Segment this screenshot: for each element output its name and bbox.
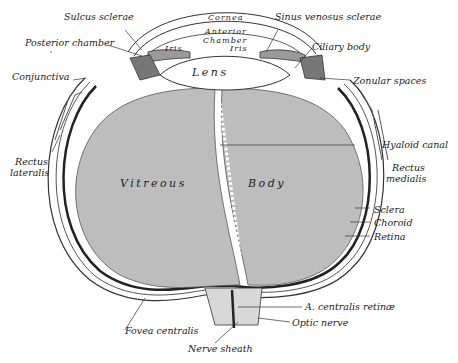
label-rectus-medialis-1: Rectus	[392, 163, 425, 173]
label-sulcus-sclerae: Sulcus sclerae	[64, 12, 134, 22]
label-fovea-centralis: Fovea centralis	[125, 326, 199, 336]
label-posterior-chamber: Posterior chamber	[25, 38, 114, 48]
label-lens: Lens	[192, 67, 229, 78]
label-a-centralis-retinae: A. centralis retinæ	[305, 302, 395, 312]
label-cornea: Cornea	[208, 14, 243, 22]
label-iris-left: Iris	[165, 45, 183, 53]
label-hyaloid-canal: Hyaloid canal	[382, 140, 448, 150]
label-anterior: Anterior	[205, 28, 247, 36]
label-zonular-spaces: Zonular spaces	[353, 76, 426, 86]
label-vitreous: Vitreous	[120, 178, 187, 189]
optic-nerve	[205, 288, 262, 328]
label-sinus-venosus-sclerae: Sinus venosus sclerae	[275, 12, 381, 22]
label-rectus-lateralis-1: Rectus	[15, 157, 48, 167]
label-retina: Retina	[374, 232, 405, 242]
eyeball-diagram: Cornea Anterior Chamber Iris Iris Lens V…	[0, 0, 458, 363]
label-body: Body	[248, 178, 286, 189]
label-choroid: Choroid	[374, 218, 413, 228]
label-ciliary-body: Ciliary body	[312, 42, 370, 52]
label-conjunctiva: Conjunctiva	[12, 72, 70, 82]
vitreous-body	[76, 88, 363, 288]
label-iris-right: Iris	[230, 45, 248, 53]
label-rectus-medialis-2: medialis	[386, 174, 426, 184]
label-rectus-lateralis-2: lateralis	[10, 168, 49, 178]
label-sclera: Sclera	[374, 205, 405, 215]
label-nerve-sheath: Nerve sheath	[188, 344, 253, 354]
label-optic-nerve: Optic nerve	[292, 318, 348, 328]
